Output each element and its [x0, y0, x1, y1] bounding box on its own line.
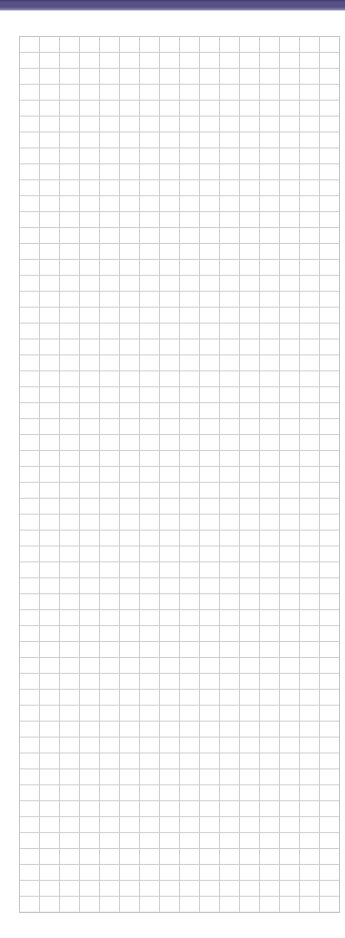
graph-paper-grid [19, 36, 340, 913]
binding-bar [0, 0, 345, 11]
page [0, 0, 345, 938]
